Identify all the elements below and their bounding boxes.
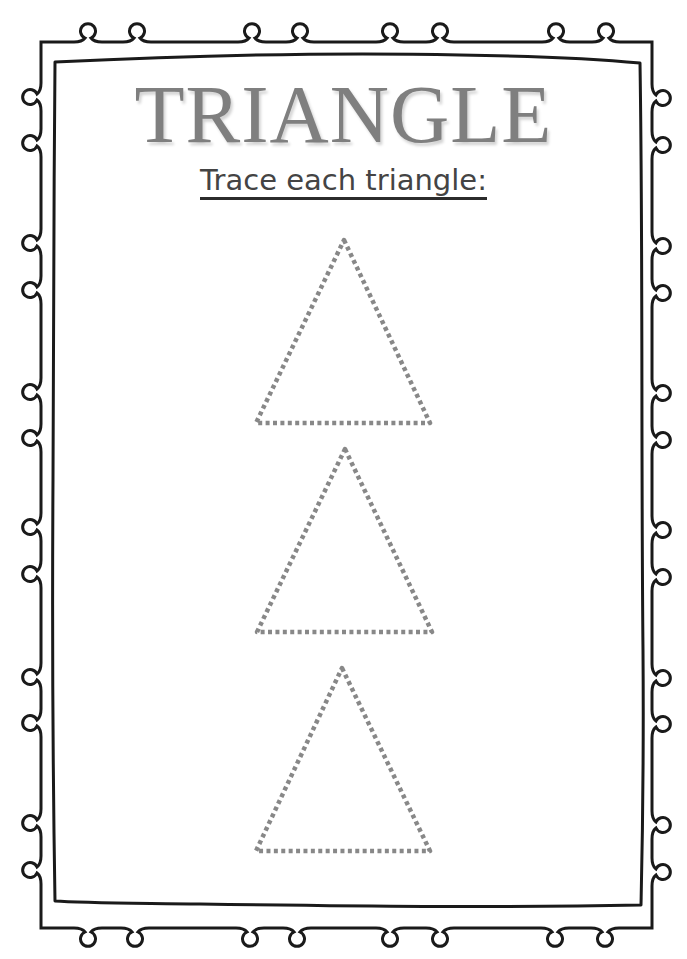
dotted-triangle-2 [257, 449, 432, 632]
tracing-triangles [256, 240, 432, 851]
dotted-triangle-3 [256, 668, 430, 851]
dotted-triangle-1 [256, 240, 430, 423]
worksheet-instruction: Trace each triangle: [0, 160, 687, 200]
worksheet-title: TRIANGLE [0, 74, 687, 156]
instruction-text: Trace each triangle: [200, 163, 487, 200]
